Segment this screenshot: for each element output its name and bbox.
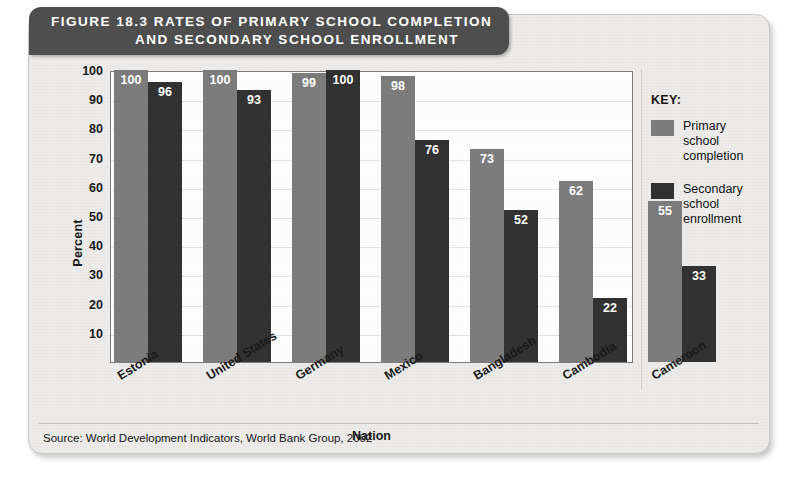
bar: 100 xyxy=(203,70,237,362)
bar-value-label: 96 xyxy=(148,85,182,99)
x-axis-tick-labels: EstoniaUnited StatesGermanyMexicoBanglad… xyxy=(110,365,633,435)
bar-value-label: 99 xyxy=(292,76,326,90)
bar-group: 9876 xyxy=(381,72,449,362)
bar-group: 99100 xyxy=(292,72,360,362)
bar-group: 6222 xyxy=(559,72,627,362)
bar-value-label: 76 xyxy=(415,143,449,157)
y-axis-tick-labels: 102030405060708090100 xyxy=(59,71,107,363)
legend-swatch-secondary xyxy=(651,183,674,199)
bar: 98 xyxy=(381,76,415,362)
legend-label: Secondary school enrollment xyxy=(683,182,763,227)
bar: 73 xyxy=(470,149,504,362)
y-tick-90: 90 xyxy=(59,93,103,107)
bar-group: 7352 xyxy=(470,72,538,362)
bar-group: 10096 xyxy=(114,72,182,362)
y-tick-40: 40 xyxy=(59,239,103,253)
y-tick-20: 20 xyxy=(59,298,103,312)
legend-label: Primary school completion xyxy=(683,119,763,164)
legend-title: KEY: xyxy=(651,93,763,107)
legend-item: Primary school completion xyxy=(651,119,763,164)
bar-value-label: 100 xyxy=(326,73,360,87)
bar-value-label: 93 xyxy=(237,93,271,107)
y-tick-60: 60 xyxy=(59,181,103,195)
bar: 100 xyxy=(114,70,148,362)
y-tick-50: 50 xyxy=(59,210,103,224)
bar-value-label: 98 xyxy=(381,79,415,93)
figure-title-line-2: AND SECONDARY SCHOOL ENROLLMENT xyxy=(51,31,497,49)
bar-group: 10093 xyxy=(203,72,271,362)
legend-item: Secondary school enrollment xyxy=(651,182,763,227)
bar: 100 xyxy=(326,70,360,362)
bar: 76 xyxy=(415,140,449,362)
source-divider xyxy=(39,423,759,424)
legend-items: Primary school completionSecondary schoo… xyxy=(651,119,763,227)
source-note: Source: World Development Indicators, Wo… xyxy=(43,432,372,444)
bar: 93 xyxy=(237,90,271,362)
bar-value-label: 22 xyxy=(593,301,627,315)
bar-value-label: 100 xyxy=(203,73,237,87)
figure-title-banner: FIGURE 18.3 RATES OF PRIMARY SCHOOL COMP… xyxy=(29,7,509,55)
bar-value-label: 73 xyxy=(470,152,504,166)
bar-value-label: 62 xyxy=(559,184,593,198)
legend-divider xyxy=(641,69,642,389)
bar-value-label: 100 xyxy=(114,73,148,87)
y-tick-10: 10 xyxy=(59,327,103,341)
bar: 62 xyxy=(559,181,593,362)
bar-value-label: 33 xyxy=(682,269,716,283)
plot-box: 1009610093991009876735262225533 xyxy=(110,71,633,363)
chart-area: Percent 102030405060708090100 1009610093… xyxy=(29,61,769,453)
bars-layer: 1009610093991009876735262225533 xyxy=(111,72,632,362)
y-tick-100: 100 xyxy=(59,64,103,78)
legend: KEY: Primary school completionSecondary … xyxy=(651,93,763,245)
legend-swatch-primary xyxy=(651,120,674,136)
figure-title-line-1: FIGURE 18.3 RATES OF PRIMARY SCHOOL COMP… xyxy=(51,13,497,31)
figure-card: FIGURE 18.3 RATES OF PRIMARY SCHOOL COMP… xyxy=(28,14,770,454)
y-tick-30: 30 xyxy=(59,268,103,282)
y-tick-70: 70 xyxy=(59,152,103,166)
bar: 96 xyxy=(148,82,182,362)
bar-value-label: 52 xyxy=(504,213,538,227)
bar: 99 xyxy=(292,73,326,362)
y-tick-80: 80 xyxy=(59,122,103,136)
